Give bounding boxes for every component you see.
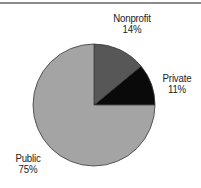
label-private-value: 11% [159, 84, 196, 95]
pie-slices [33, 44, 155, 166]
label-nonprofit: Nonprofit 14% [113, 13, 152, 35]
label-nonprofit-value: 14% [113, 24, 152, 35]
label-public: Public 75% [11, 153, 46, 175]
label-public-value: 75% [11, 164, 46, 175]
label-private: Private 11% [159, 73, 196, 95]
